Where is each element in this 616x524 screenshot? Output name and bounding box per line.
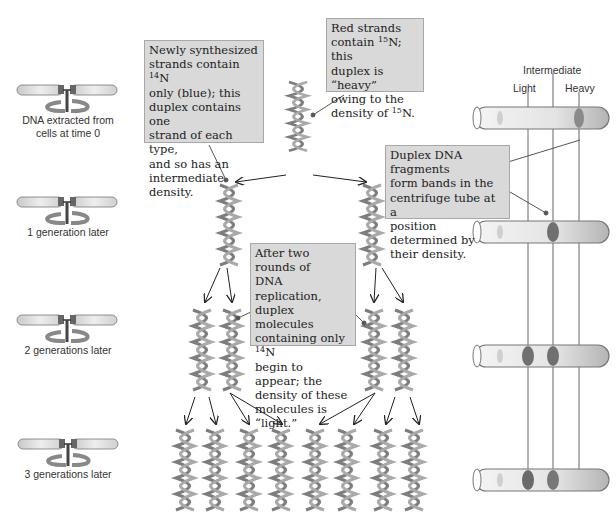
- density-label-heavy: Heavy: [565, 82, 595, 94]
- density-guide-lines: [528, 73, 579, 480]
- centrifuge-tube-g3: [473, 469, 609, 491]
- density-label-intermediate: Intermediate: [523, 64, 581, 76]
- callout-bands: Duplex DNA fragments form bands in the c…: [385, 145, 510, 219]
- dna-helix-g3: [176, 430, 423, 510]
- centrifuge-tube-g0: [473, 107, 609, 129]
- callout-light: After two rounds of DNA replication, dup…: [250, 243, 356, 346]
- centrifuge-tube-g2: [473, 345, 609, 367]
- callout-intermediate: Newly synthesized strands contain 14N on…: [144, 40, 264, 143]
- dna-helix-g0: [289, 82, 307, 151]
- generation-label-g2: 2 generations later: [8, 344, 128, 357]
- centrifuge-rotor-icon-g0: [17, 85, 117, 112]
- centrifuge-rotor-icon-g1: [17, 197, 117, 224]
- generation-label-g1: 1 generation later: [8, 226, 128, 239]
- generation-label-g3: 3 generations later: [8, 468, 128, 481]
- generation-label-g0: DNA extracted from cells at time 0: [8, 114, 128, 140]
- centrifuge-tube-g1: [473, 221, 609, 243]
- centrifuge-rotor-icon-g2: [17, 315, 117, 342]
- density-label-light: Light: [513, 82, 536, 94]
- centrifuge-rotor-icon-g3: [18, 439, 118, 466]
- callout-heavy: Red strands contain 15N; this duplex is …: [326, 18, 424, 92]
